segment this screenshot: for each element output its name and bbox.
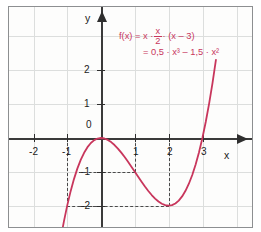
fraction-denominator: 2 <box>154 36 161 46</box>
graph-figure: -2 -1 1 2 3 2 1 -1 -2 0 x y f(x) = x ·x2… <box>0 0 261 232</box>
formula-line2: = 0,5 · x³ – 1,5 · x² <box>143 47 219 59</box>
formula-line1: f(x) = x ·x2· (x – 3) <box>119 31 195 41</box>
formula-line1-suffix: · (x – 3) <box>163 31 195 41</box>
function-formula: f(x) = x ·x2· (x – 3) = 0,5 · x³ – 1,5 ·… <box>119 27 219 58</box>
formula-fraction: x2 <box>154 27 161 47</box>
formula-line1-prefix: f(x) = x · <box>119 31 153 41</box>
fraction-numerator: x <box>154 27 161 36</box>
plot-frame: -2 -1 1 2 3 2 1 -1 -2 0 x y f(x) = x ·x2… <box>8 6 253 228</box>
